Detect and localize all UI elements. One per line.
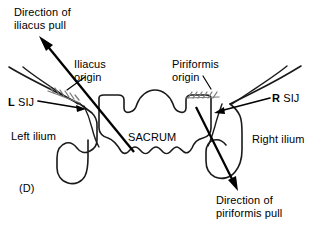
r-sij-leader-head: [214, 107, 225, 114]
sacrum-outline-group: [99, 90, 211, 154]
label-left-ilium: Left ilium: [11, 130, 56, 143]
pelvis-diagram-figure: Direction of iliacus pull Iliacus origin…: [0, 0, 311, 236]
piriformis-pull-arrow-shaft: [196, 107, 234, 183]
sacrum-outline: [99, 90, 211, 154]
label-direction-of-piriformis-pull: Direction of piriformis pull: [216, 194, 282, 219]
left-ilium-body: [57, 104, 97, 184]
label-left-sij-text: SIJ: [15, 96, 34, 108]
r-sij-leader: [214, 98, 270, 114]
label-direction-of-iliacus-pull: Direction of iliacus pull: [14, 6, 71, 31]
label-right-ilium: Right ilium: [252, 133, 304, 146]
label-sacrum: SACRUM: [128, 131, 176, 144]
label-right-sij: R SIJ: [272, 92, 299, 105]
right-ilium-group: [206, 66, 301, 178]
r-sij-leader-line: [220, 98, 270, 111]
label-left-sij: L SIJ: [8, 96, 34, 109]
panel-letter-label: (D): [19, 182, 35, 195]
label-left-sij-side: L: [8, 96, 15, 108]
label-right-sij-text: SIJ: [280, 92, 299, 104]
iliacus-origin-hatch: [48, 87, 80, 103]
piriformis-pull-arrow-head: [228, 176, 238, 191]
left-ilium-group: [9, 67, 99, 184]
label-piriformis-origin: Piriformis origin: [172, 58, 219, 83]
label-iliacus-origin: Iliacus origin: [74, 58, 106, 83]
label-right-sij-side: R: [272, 92, 280, 104]
